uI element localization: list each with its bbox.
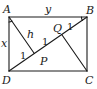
vertex-label-B: B <box>86 5 94 16</box>
vertex-label-D: D <box>2 75 11 86</box>
point-label-Q: Q <box>53 23 62 34</box>
side-label-x: x <box>1 38 7 49</box>
vertex-label-C: C <box>85 75 93 86</box>
segment-label-PQ: 1 <box>42 36 48 47</box>
point-label-P: P <box>40 56 47 67</box>
rectangle-diagonal-diagram: A y B x h Q 1 1 1 P D C <box>0 0 97 89</box>
vertex-label-A: A <box>3 4 11 15</box>
perp-label-h: h <box>27 29 34 40</box>
segment-label-QB: 1 <box>67 21 73 32</box>
side-label-y: y <box>45 4 51 15</box>
perpendicular-CQ <box>62 35 87 72</box>
segment-label-DP: 1 <box>20 50 26 61</box>
